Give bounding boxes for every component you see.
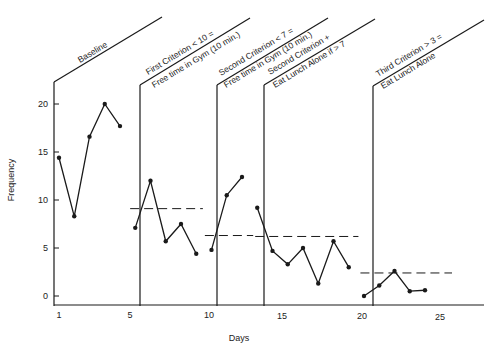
data-point (87, 134, 91, 138)
data-line (59, 104, 120, 216)
data-line (257, 208, 349, 284)
data-point (148, 179, 152, 183)
x-tick-label: 15 (277, 311, 287, 321)
data-point (377, 283, 381, 287)
x-tick-label: 25 (435, 312, 445, 322)
data-point (286, 262, 290, 266)
y-tick-label: 10 (38, 195, 48, 205)
data-point (225, 193, 229, 197)
phase-series-1 (57, 102, 122, 219)
data-point (118, 124, 122, 128)
x-tick-label: 20 (357, 311, 367, 321)
phase-series-5 (360, 269, 452, 298)
data-series (57, 102, 452, 298)
data-line (212, 177, 243, 250)
data-point (179, 222, 183, 226)
x-tick-label: 1 (56, 310, 61, 320)
data-point (347, 265, 351, 269)
data-point (103, 102, 107, 106)
y-tick-label: 20 (38, 99, 48, 109)
data-point (331, 239, 335, 243)
data-point (194, 252, 198, 256)
data-point (392, 269, 396, 273)
phase-series-3 (205, 175, 253, 252)
data-point (408, 289, 412, 293)
y-axis-title: Frequency (6, 158, 16, 201)
x-tick-label: 10 (204, 310, 214, 320)
data-point (270, 249, 274, 253)
data-point (301, 246, 305, 250)
data-point (423, 288, 427, 292)
data-point (72, 214, 76, 218)
data-point (316, 281, 320, 285)
phase-series-4 (255, 205, 358, 285)
x-axis-title: Days (229, 333, 250, 343)
y-tick-label: 0 (43, 291, 48, 301)
chart-canvas: 0 5 10 15 20 1 5 10 15 20 25 Days Freque… (0, 0, 493, 355)
data-point (362, 294, 366, 298)
phase-series-2 (130, 179, 203, 256)
x-axis-tick-labels: 1 5 10 15 20 25 (56, 310, 445, 322)
data-point (209, 248, 213, 252)
data-point (255, 205, 259, 209)
y-axis-ticks: 0 5 10 15 20 (38, 99, 59, 301)
x-tick-label: 5 (127, 310, 132, 320)
data-point (164, 239, 168, 243)
data-point (57, 156, 61, 160)
y-tick-label: 5 (43, 243, 48, 253)
data-point (240, 175, 244, 179)
chart-frame (54, 82, 484, 306)
y-tick-label: 15 (38, 147, 48, 157)
data-point (133, 226, 137, 230)
